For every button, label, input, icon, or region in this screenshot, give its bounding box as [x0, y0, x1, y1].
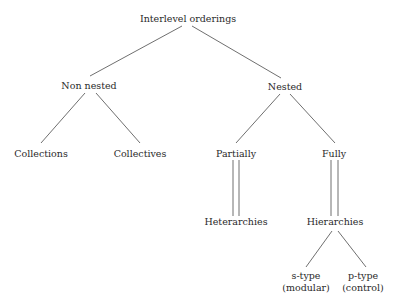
- edge-hierarchies-p-type: [338, 231, 366, 267]
- edge-non-nested-collectives: [96, 93, 140, 143]
- node-collections-label: Collections: [14, 148, 68, 159]
- node-p-type-label: p-type: [348, 270, 379, 281]
- node-fully-label: Fully: [322, 148, 347, 159]
- node-s-type-label: s-type: [292, 270, 321, 281]
- edge-nested-fully: [290, 94, 335, 143]
- node-nested-label: Nested: [268, 81, 302, 92]
- node-partially-label: Partially: [216, 148, 257, 159]
- edge-root-nested: [192, 26, 281, 78]
- edge-root-non-nested: [90, 26, 182, 76]
- edge-hierarchies-s-type: [306, 231, 332, 267]
- node-heterarchies-label: Heterarchies: [204, 216, 267, 227]
- node-collectives-label: Collectives: [114, 148, 167, 159]
- edge-non-nested-collections: [41, 93, 85, 143]
- node-non-nested-label: Non nested: [61, 80, 116, 91]
- node-s-type-sublabel: (modular): [282, 282, 330, 293]
- tree-diagram: Interlevel orderings Non nested Nested C…: [0, 0, 399, 305]
- node-hierarchies-label: Hierarchies: [307, 216, 364, 227]
- edge-nested-partially: [236, 94, 280, 143]
- node-p-type-sublabel: (control): [342, 282, 384, 293]
- node-root-label: Interlevel orderings: [140, 13, 236, 24]
